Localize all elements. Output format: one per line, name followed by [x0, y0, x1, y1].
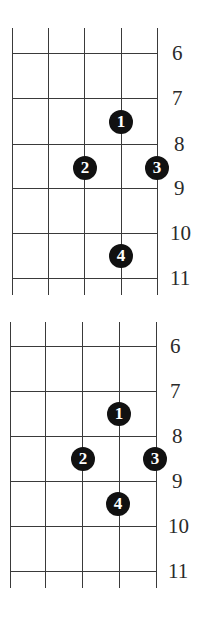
- string-line: [119, 322, 120, 588]
- fret-number-label: 8: [174, 134, 185, 155]
- fret-number-label: 10: [168, 516, 189, 537]
- fret-number-label: 11: [170, 268, 190, 289]
- fret-number-label: 11: [168, 561, 188, 582]
- fret-line: [10, 481, 157, 482]
- fret-number-label: 9: [174, 178, 185, 199]
- string-line: [45, 322, 46, 588]
- fret-number-label: 6: [170, 336, 181, 357]
- string-line: [12, 28, 13, 295]
- finger-dot-1: 1: [107, 402, 131, 426]
- string-line: [48, 28, 49, 295]
- finger-dot-2: 2: [73, 156, 97, 180]
- fret-line: [10, 391, 157, 392]
- fret-number-label: 10: [170, 223, 191, 244]
- fret-line: [12, 98, 158, 99]
- finger-dot-4: 4: [106, 492, 130, 516]
- fret-line: [12, 144, 158, 145]
- fret-line: [10, 346, 157, 347]
- fret-number-label: 9: [172, 471, 183, 492]
- finger-dot-4: 4: [109, 244, 133, 268]
- fret-line: [12, 278, 158, 279]
- finger-dot-2: 2: [71, 447, 95, 471]
- fret-number-label: 7: [172, 88, 183, 109]
- fret-number-label: 6: [172, 43, 183, 64]
- fret-line: [12, 53, 158, 54]
- fret-number-label: 8: [172, 426, 183, 447]
- fret-line: [12, 233, 158, 234]
- finger-dot-3: 3: [145, 156, 169, 180]
- fret-line: [10, 436, 157, 437]
- fret-line: [10, 526, 157, 527]
- string-line: [10, 322, 11, 588]
- fret-line: [10, 571, 157, 572]
- fret-number-label: 7: [170, 381, 181, 402]
- fret-line: [12, 188, 158, 189]
- finger-dot-3: 3: [143, 447, 167, 471]
- finger-dot-1: 1: [109, 110, 133, 134]
